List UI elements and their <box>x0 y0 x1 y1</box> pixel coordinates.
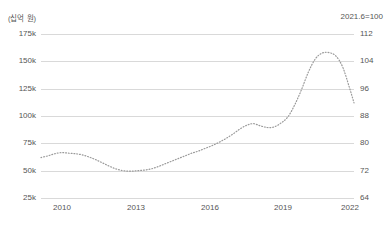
gridline <box>41 198 354 199</box>
y-axis-right-tick: 72 <box>360 166 390 175</box>
x-axis-tick: 2019 <box>274 203 292 212</box>
y-axis-left-tick: 150k <box>2 56 36 65</box>
y-axis-right-tick: 64 <box>360 193 390 202</box>
x-axis-tick: 2010 <box>53 203 71 212</box>
series-line-1 <box>41 52 354 171</box>
y-axis-right-tick: 88 <box>360 111 390 120</box>
x-axis-tick: 2016 <box>201 203 219 212</box>
x-axis-tick: 2013 <box>127 203 145 212</box>
y-axis-left-tick: 175k <box>2 29 36 38</box>
y-axis-unit-label: (십억 원) <box>8 12 36 23</box>
index-base-note: 2021.6=100 <box>341 12 384 21</box>
y-axis-left-tick: 50k <box>2 166 36 175</box>
y-axis-right-tick: 80 <box>360 138 390 147</box>
y-axis-right-tick: 96 <box>360 84 390 93</box>
y-axis-left-tick: 100k <box>2 111 36 120</box>
y-axis-left-tick: 25k <box>2 193 36 202</box>
x-axis-tick: 2022 <box>341 203 359 212</box>
series-layer <box>41 34 354 198</box>
y-axis-right-tick: 112 <box>360 29 390 38</box>
y-axis-left-tick: 75k <box>2 138 36 147</box>
y-axis-right-tick: 104 <box>360 56 390 65</box>
y-axis-left-tick: 125k <box>2 84 36 93</box>
chart-container: (십억 원) 2021.6=100 175k 150k 125k 100k 75… <box>0 0 391 234</box>
